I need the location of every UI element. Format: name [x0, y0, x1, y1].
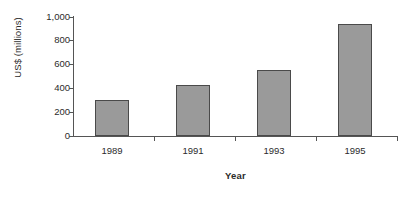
bar-1993: [257, 70, 291, 136]
x-tick-mark: [316, 137, 317, 141]
y-tick-mark: [69, 40, 73, 41]
y-tick-mark: [69, 112, 73, 113]
x-axis-title: Year: [73, 170, 398, 181]
x-tick-mark: [397, 137, 398, 141]
y-tick-label: 600: [28, 59, 70, 69]
y-axis-line: [73, 16, 74, 137]
bar-chart: US$ (millions) 1,000 800 600 400 200 0 1…: [0, 0, 416, 197]
x-category-label-1995: 1995: [325, 145, 385, 156]
y-tick-mark: [69, 64, 73, 65]
y-tick-label: 0: [28, 131, 70, 141]
x-category-label-1993: 1993: [244, 145, 304, 156]
y-tick-label: 800: [28, 35, 70, 45]
x-tick-mark: [154, 137, 155, 141]
y-tick-label: 1,000: [28, 12, 70, 22]
bar-1991: [176, 85, 210, 136]
y-tick-label: 200: [28, 107, 70, 117]
y-axis-title: US$ (millions): [12, 0, 23, 103]
y-tick-mark: [69, 136, 73, 137]
y-axis-tick-labels: 1,000 800 600 400 200 0: [28, 0, 70, 197]
y-tick-label: 400: [28, 83, 70, 93]
x-category-label-1991: 1991: [163, 145, 223, 156]
bar-1995: [338, 24, 372, 136]
y-tick-mark: [69, 17, 73, 18]
x-tick-mark: [235, 137, 236, 141]
bar-1989: [95, 100, 129, 136]
y-tick-mark: [69, 88, 73, 89]
x-category-label-1989: 1989: [82, 145, 142, 156]
